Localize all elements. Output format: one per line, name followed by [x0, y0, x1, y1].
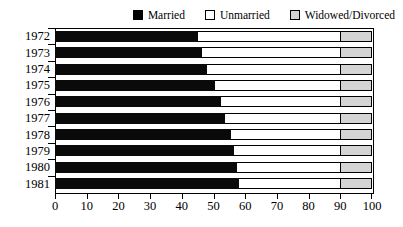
bar-segment-married: [55, 162, 237, 173]
bar-segment-widowed-divorced: [340, 145, 372, 156]
bar-segment-unmarried: [198, 31, 341, 42]
bar-segment-widowed-divorced: [340, 129, 372, 140]
x-axis-labels: 0102030405060708090100: [55, 199, 372, 217]
x-axis-tick-label: 40: [176, 199, 189, 213]
bar-row: [55, 178, 372, 189]
y-axis-tick-mark: [48, 143, 55, 144]
x-axis-tick-label: 50: [207, 199, 220, 213]
x-axis-tick-label: 70: [271, 199, 284, 213]
legend-label-married: Married: [148, 9, 185, 21]
bar-segment-unmarried: [231, 129, 340, 140]
bar-segment-unmarried: [239, 178, 340, 189]
legend-entry-widowed: Widowed/Divorced: [290, 9, 395, 21]
y-axis-tick-mark: [48, 176, 55, 177]
legend-label-widowed: Widowed/Divorced: [305, 9, 395, 21]
bar-row: [55, 64, 372, 75]
x-axis-tick-label: 60: [239, 199, 252, 213]
y-axis-tick-label: 1980: [4, 161, 50, 173]
bar-row: [55, 113, 372, 124]
x-axis-tick-label: 90: [334, 199, 347, 213]
bar-segment-unmarried: [237, 162, 340, 173]
x-axis-tick-label: 100: [363, 199, 382, 213]
x-axis-tick-label: 0: [52, 199, 58, 213]
y-axis-tick-label: 1975: [4, 79, 50, 91]
bar-segment-widowed-divorced: [340, 113, 372, 124]
y-axis-tick-label: 1976: [4, 96, 50, 108]
gray-swatch-icon: [290, 10, 300, 20]
bar-segment-married: [55, 80, 215, 91]
y-axis-tick-label: 1973: [4, 47, 50, 59]
bar-segment-unmarried: [207, 64, 340, 75]
legend-label-unmarried: Unmarried: [220, 9, 270, 21]
bar-segment-unmarried: [225, 113, 341, 124]
y-axis-tick-mark: [48, 126, 55, 127]
bar-row: [55, 47, 372, 58]
y-axis-tick-mark: [48, 110, 55, 111]
y-axis-labels: 1972197319741975197619771978197919801981: [0, 28, 50, 192]
bar-segment-married: [55, 47, 202, 58]
bar-segment-married: [55, 113, 225, 124]
bar-segment-widowed-divorced: [340, 31, 372, 42]
bar-row: [55, 162, 372, 173]
bar-segment-married: [55, 64, 207, 75]
x-axis-tick-label: 30: [144, 199, 157, 213]
y-axis-tick-mark: [48, 28, 55, 29]
bar-row: [55, 129, 372, 140]
y-axis-tick-mark: [48, 77, 55, 78]
bars-layer: [55, 28, 372, 192]
y-axis-tick-mark: [48, 159, 55, 160]
bar-segment-married: [55, 129, 231, 140]
bar-segment-widowed-divorced: [340, 80, 372, 91]
bar-segment-widowed-divorced: [340, 47, 372, 58]
bar-segment-unmarried: [215, 80, 340, 91]
y-axis-tick-mark: [48, 94, 55, 95]
x-axis-tick-label: 20: [112, 199, 125, 213]
bar-row: [55, 96, 372, 107]
bar-segment-widowed-divorced: [340, 64, 372, 75]
bar-segment-married: [55, 96, 221, 107]
y-axis-tick-label: 1981: [4, 178, 50, 190]
bar-segment-married: [55, 145, 234, 156]
x-axis-tick-label: 10: [80, 199, 93, 213]
black-swatch-icon: [133, 10, 143, 20]
legend-entry-unmarried: Unmarried: [205, 9, 270, 21]
chart-legend: Married Unmarried Widowed/Divorced: [0, 6, 403, 24]
y-axis-tick-label: 1972: [4, 30, 50, 42]
y-axis-tick-mark: [48, 61, 55, 62]
y-axis-tick-label: 1978: [4, 129, 50, 141]
y-axis-ticks: [48, 28, 55, 192]
bar-segment-unmarried: [221, 96, 340, 107]
bar-segment-widowed-divorced: [340, 96, 372, 107]
bar-row: [55, 31, 372, 42]
y-axis-tick-label: 1977: [4, 112, 50, 124]
bar-segment-married: [55, 178, 239, 189]
bar-segment-widowed-divorced: [340, 162, 372, 173]
y-axis-tick-label: 1979: [4, 145, 50, 157]
bar-segment-widowed-divorced: [340, 178, 372, 189]
white-swatch-icon: [205, 10, 215, 20]
stacked-bar-chart: Married Unmarried Widowed/Divorced 19721…: [0, 0, 403, 227]
bar-segment-unmarried: [202, 47, 340, 58]
y-axis-tick-label: 1974: [4, 63, 50, 75]
bar-segment-married: [55, 31, 198, 42]
y-axis-tick-mark: [48, 44, 55, 45]
bar-row: [55, 80, 372, 91]
x-axis-tick-label: 80: [302, 199, 315, 213]
bar-row: [55, 145, 372, 156]
bar-segment-unmarried: [234, 145, 340, 156]
legend-entry-married: Married: [133, 9, 185, 21]
